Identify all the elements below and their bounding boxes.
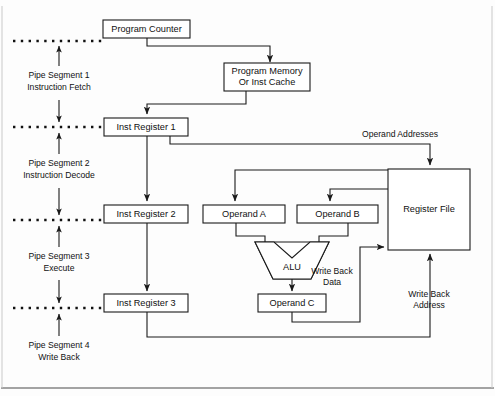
write-back-data-label-line1: Write Back <box>311 266 353 276</box>
operand-c-label: Operand C <box>270 298 315 308</box>
operand-addresses-label: Operand Addresses <box>362 129 438 139</box>
program-memory-label-line1: Program Memory <box>232 66 303 76</box>
edge-register-file-to-operand-b <box>330 189 388 201</box>
program-counter-label: Program Counter <box>111 24 181 34</box>
node-operand-b: Operand B <box>297 205 378 223</box>
pipe-segment-2-group: Pipe Segment 2 Instruction Decode <box>23 133 95 215</box>
operand-b-label: Operand B <box>315 209 359 219</box>
edge-pc-to-program-memory <box>147 38 270 62</box>
pipe-segment-1-group: Pipe Segment 1 Instruction Fetch <box>27 46 91 122</box>
pipe-segment-2-label-line1: Pipe Segment 2 <box>28 158 89 168</box>
node-operand-a: Operand A <box>203 205 285 223</box>
edge-inst-register-1-to-register-file <box>170 136 430 165</box>
operand-a-label: Operand A <box>222 209 267 219</box>
node-inst-register-1: Inst Register 1 <box>104 118 188 136</box>
pipe-segment-3-label-line1: Pipe Segment 3 <box>28 251 89 261</box>
node-program-memory: Program Memory Or Inst Cache <box>224 63 310 91</box>
pipe-segment-4-group: Pipe Segment 4 Write Back <box>28 314 89 362</box>
edge-program-memory-to-inst-register-1 <box>147 91 246 114</box>
node-program-counter: Program Counter <box>103 20 190 38</box>
register-file-label: Register File <box>403 204 455 214</box>
pipeline-diagram-figure: Pipe Segment 1 Instruction Fetch Pipe Se… <box>0 0 495 396</box>
program-memory-label-line2: Or Inst Cache <box>239 77 296 87</box>
write-back-data-label-line2: Data <box>323 277 341 287</box>
pipe-segment-3-group: Pipe Segment 3 Execute <box>28 226 89 303</box>
node-inst-register-3: Inst Register 3 <box>104 294 188 312</box>
edge-operand-b-to-alu <box>319 222 348 243</box>
node-inst-register-2: Inst Register 2 <box>104 205 188 223</box>
write-back-address-label-line2: Address <box>413 300 445 310</box>
inst-register-2-label: Inst Register 2 <box>116 209 175 219</box>
edge-register-file-to-operand-a <box>235 170 388 201</box>
pipe-segment-1-label-line2: Instruction Fetch <box>27 82 91 92</box>
alu-label: ALU <box>283 262 301 272</box>
pipe-segment-1-label-line1: Pipe Segment 1 <box>28 70 89 80</box>
diagram-canvas: Pipe Segment 1 Instruction Fetch Pipe Se… <box>0 0 495 396</box>
pipe-segment-3-label-line2: Execute <box>43 263 74 273</box>
pipe-segment-2-label-line2: Instruction Decode <box>23 170 95 180</box>
pipe-segment-4-label-line1: Pipe Segment 4 <box>28 340 89 350</box>
edge-operand-a-to-alu <box>236 222 265 243</box>
pipe-segment-4-label-line2: Write Back <box>38 352 80 362</box>
node-operand-c: Operand C <box>258 294 326 312</box>
inst-register-3-label: Inst Register 3 <box>116 298 175 308</box>
inst-register-1-label: Inst Register 1 <box>116 122 175 132</box>
node-register-file: Register File <box>388 169 470 250</box>
write-back-address-label-line1: Write Back <box>408 289 450 299</box>
